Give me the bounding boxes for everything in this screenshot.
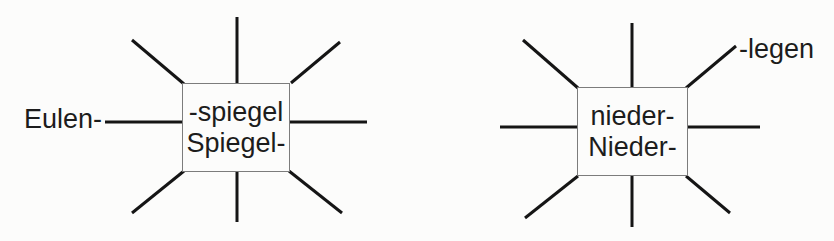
spoke-line [686,46,736,88]
spoke-line [291,42,340,83]
spoke-line [289,171,342,213]
word-line-prefix-upper: Nieder- [588,132,677,163]
spoke-line [523,40,578,88]
spoke-line [525,176,578,218]
spoke-line [132,40,184,84]
word-line-prefix-lower: nieder- [590,101,674,132]
example-label-eulen: Eulen- [24,104,102,134]
spoke-line [132,171,184,213]
word-web-worksheet: -spiegel Spiegel- nieder- Nieder- Eulen-… [0,0,834,241]
spoke-lines [0,0,834,241]
word-line-suffix: -spiegel [189,97,284,128]
center-word-box-nieder: nieder- Nieder- [577,87,688,176]
example-label-legen: -legen [739,34,814,64]
spoke-line [686,176,730,213]
word-line-prefix: Spiegel- [186,128,285,159]
center-word-box-spiegel: -spiegel Spiegel- [182,83,290,172]
